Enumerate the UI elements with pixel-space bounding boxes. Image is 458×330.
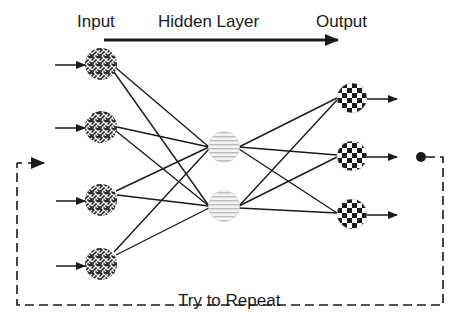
hidden-output-connections (239, 98, 337, 213)
output-layer (337, 83, 367, 229)
input-layer (85, 48, 117, 280)
output-node-1 (337, 83, 367, 113)
input-hidden-connections (114, 68, 209, 255)
feedback-loop (17, 152, 443, 305)
output-arrows (367, 99, 397, 215)
hidden-node-2 (209, 191, 240, 222)
input-node-2 (85, 111, 117, 143)
neural-network-diagram: Input Hidden Layer Output Try to Repeat (0, 0, 458, 330)
output-node-2 (337, 141, 367, 171)
hidden-layer (209, 132, 240, 222)
network-graphic (0, 0, 458, 330)
input-arrows (55, 65, 85, 266)
feedback-source-dot (416, 152, 426, 162)
hidden-node-1 (209, 132, 240, 163)
input-node-1 (85, 48, 117, 80)
input-node-3 (85, 184, 117, 216)
input-node-4 (85, 248, 117, 280)
output-node-3 (337, 199, 367, 229)
